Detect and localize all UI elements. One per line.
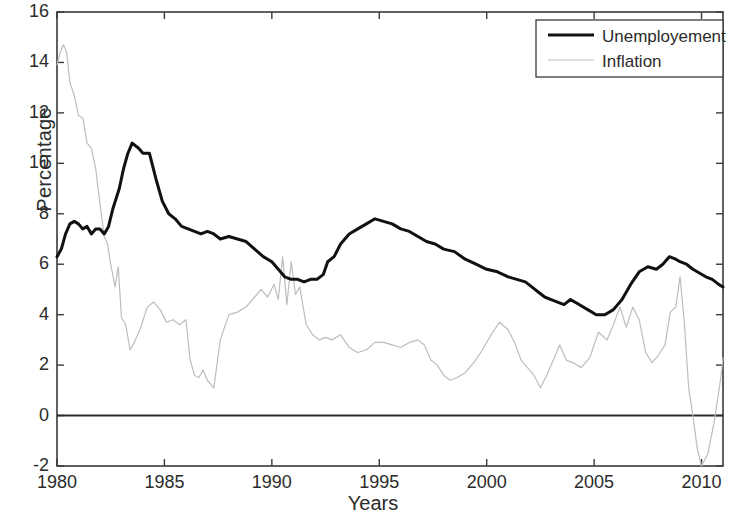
axes-frame [57,12,723,466]
data-series [57,45,723,466]
x-axis-title: Years [0,492,746,515]
y-tick-label: 14 [3,51,49,72]
x-tick-label: 2010 [662,472,742,493]
legend-label-inflation: Inflation [602,52,662,72]
y-tick-label: 4 [3,304,49,325]
tick-marks [57,12,723,466]
chart-canvas [0,0,746,523]
x-tick-label: 1985 [124,472,204,493]
y-tick-label: 16 [3,1,49,22]
x-tick-label: 2000 [447,472,527,493]
y-tick-label: 6 [3,253,49,274]
chart-figure: -20246810121416 198019851990199520002005… [0,0,746,523]
x-tick-label: 1995 [339,472,419,493]
x-tick-label: 1990 [232,472,312,493]
x-tick-label: 1980 [17,472,97,493]
x-tick-label: 2005 [554,472,634,493]
legend-label-unemployment: Unemployement [602,27,726,47]
y-tick-label: 2 [3,354,49,375]
y-axis-title: Percentage [33,90,56,230]
y-tick-label: 0 [3,405,49,426]
